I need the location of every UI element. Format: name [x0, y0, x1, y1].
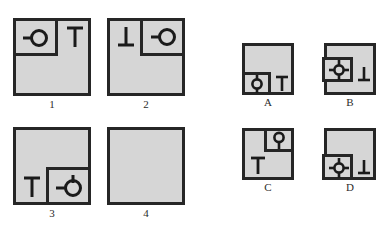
- prompt-cell-3[interactable]: 3: [13, 127, 91, 205]
- tee-icon: [275, 75, 289, 92]
- option-label: A: [242, 96, 294, 108]
- prompt-cell-1[interactable]: 1: [13, 18, 91, 96]
- option-label: B: [324, 96, 376, 108]
- circle-with-bottom-stem-icon: [271, 131, 287, 150]
- panel-frame: [107, 127, 185, 205]
- option-cell-a[interactable]: A: [242, 43, 294, 95]
- circle-with-four-stems-icon: [328, 59, 350, 81]
- inverted-tee-icon: [357, 66, 371, 84]
- circle-with-left-stem-icon: [20, 27, 52, 49]
- tee-icon: [22, 175, 42, 199]
- prompt-cell-2[interactable]: 2: [107, 18, 185, 96]
- circle-with-vertical-stems-icon: [249, 74, 265, 94]
- inverted-tee-icon: [357, 159, 371, 177]
- circle-with-left-stem-and-top-stem-icon: [51, 172, 85, 200]
- option-cell-c[interactable]: C: [242, 128, 294, 180]
- option-cell-b[interactable]: B: [324, 43, 376, 95]
- cropped-header-text: —··············: [0, 0, 58, 4]
- option-cell-d[interactable]: D: [324, 128, 376, 180]
- prompt-cell-4[interactable]: 4: [107, 127, 185, 205]
- circle-with-four-stems-icon: [328, 157, 350, 179]
- tee-icon: [65, 25, 85, 49]
- option-label: D: [324, 181, 376, 193]
- prompt-cell-label: 2: [107, 98, 185, 110]
- prompt-cell-label: 1: [13, 98, 91, 110]
- circle-with-left-stem-icon: [148, 26, 180, 48]
- prompt-cell-label: 4: [107, 207, 185, 219]
- cropped-header-strip: —··············: [0, 0, 130, 10]
- inverted-tee-icon: [116, 25, 136, 51]
- tee-icon: [250, 156, 266, 175]
- prompt-cell-label: 3: [13, 207, 91, 219]
- option-label: C: [242, 181, 294, 193]
